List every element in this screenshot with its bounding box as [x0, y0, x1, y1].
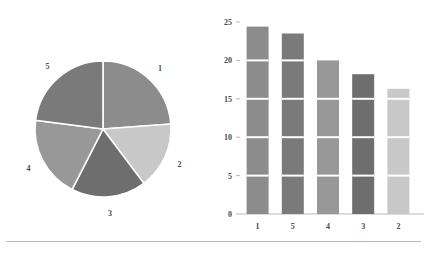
x-axis-tick-label: 3: [361, 222, 365, 231]
x-axis-tick-label: 5: [291, 222, 295, 231]
bar-rect: [352, 74, 374, 214]
y-axis-tick-label: 10: [224, 133, 232, 142]
x-axis-tick-label: 1: [256, 222, 260, 231]
bar-rect: [387, 89, 409, 214]
pie-slice: [36, 61, 103, 129]
pie-chart-svg: [0, 0, 212, 232]
x-axis-tick-group: 15432: [256, 222, 401, 231]
y-axis-tick-label: 5: [228, 172, 232, 181]
bar-chart-svg: 0510152025 15432: [212, 0, 427, 232]
figure-canvas: 12345 0510152025 15432: [0, 0, 427, 259]
bar-group: [247, 27, 410, 214]
pie-slice-label: 2: [177, 159, 181, 168]
y-axis-tick-label: 15: [224, 95, 232, 104]
y-axis-tick-label: 20: [224, 56, 232, 65]
pie-wedge-group: [35, 61, 171, 197]
bar-rect: [247, 27, 269, 214]
pie-slice-label: 1: [158, 63, 162, 72]
x-axis-tick-label: 4: [326, 222, 330, 231]
y-axis-tick-label: 25: [224, 18, 232, 27]
pie-chart-panel: 12345: [0, 0, 212, 232]
pie-slice-label: 5: [45, 61, 49, 70]
x-axis-tick-label: 2: [396, 222, 400, 231]
pie-slice-label: 4: [27, 164, 31, 173]
y-axis-tick-group: 0510152025: [224, 18, 240, 219]
y-axis-tick-label: 0: [228, 210, 232, 219]
bar-chart-panel: 0510152025 15432: [212, 0, 427, 232]
footer-divider: [6, 241, 421, 242]
pie-slice-label: 3: [108, 208, 112, 217]
